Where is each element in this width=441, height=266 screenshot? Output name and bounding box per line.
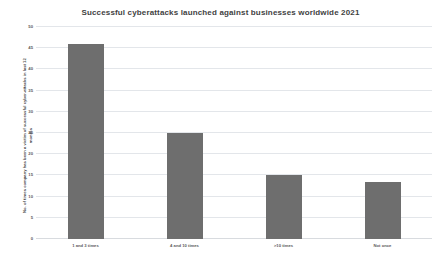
x-tick-label: >10 times xyxy=(274,243,293,248)
y-tick-label: 5 xyxy=(31,214,33,219)
bar xyxy=(365,182,401,239)
y-tick-label: 0 xyxy=(31,236,33,241)
y-tick-label: 35 xyxy=(28,87,33,92)
y-tick-label: 20 xyxy=(28,151,33,156)
plot-area: 05101520253035404550 xyxy=(36,27,432,239)
y-tick-label: 50 xyxy=(28,24,33,29)
y-tick-label: 25 xyxy=(28,130,33,135)
y-tick-label: 30 xyxy=(28,108,33,113)
y-tick-label: 45 xyxy=(28,45,33,50)
y-tick-label: 10 xyxy=(28,193,33,198)
bar xyxy=(68,44,104,239)
bar xyxy=(167,133,203,239)
x-axis-labels: 1 and 3 times4 and 10 times>10 timesNot … xyxy=(36,243,432,255)
bar-chart-figure: Successful cyberattacks launched against… xyxy=(0,0,441,266)
bar xyxy=(266,175,302,239)
chart-title: Successful cyberattacks launched against… xyxy=(0,8,441,17)
gridline: 50 xyxy=(36,26,432,27)
x-tick-label: Not once xyxy=(374,243,392,248)
y-tick-label: 15 xyxy=(28,172,33,177)
x-tick-label: 1 and 3 times xyxy=(72,243,99,248)
x-tick-label: 4 and 10 times xyxy=(170,243,199,248)
y-tick-label: 40 xyxy=(28,66,33,71)
